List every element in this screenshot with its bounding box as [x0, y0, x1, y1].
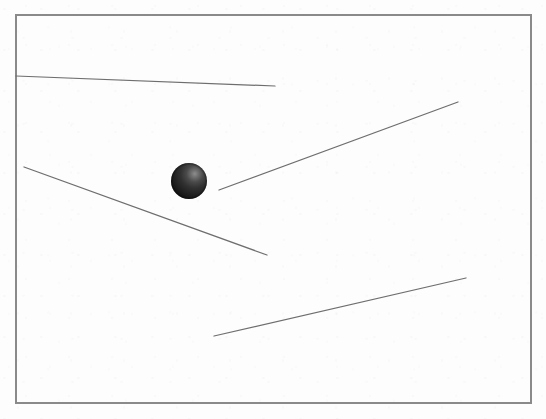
line-group [16, 76, 466, 336]
sphere-group [171, 163, 207, 199]
figure-canvas: Scanned line diagram with shaded sphere … [0, 0, 546, 419]
right-ascending-line [219, 102, 458, 190]
upper-left-shallow-line [16, 76, 275, 86]
lower-ascending-line [214, 278, 466, 336]
diagram-svg [0, 0, 546, 419]
left-descending-line [24, 167, 267, 255]
diagram-frame [16, 15, 531, 403]
sphere-rim-shadow [171, 163, 207, 199]
